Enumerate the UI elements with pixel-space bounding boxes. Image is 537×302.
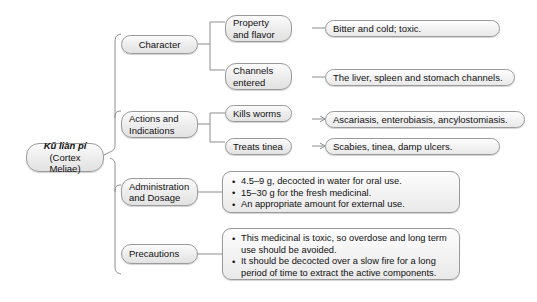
- list-item: 4.5–9 g, decocted in water for oral use.: [232, 176, 451, 188]
- subnode-label: Treats tinea: [233, 141, 283, 153]
- branch-label: Actions and Indications: [129, 113, 190, 136]
- leaf-kills-worms[interactable]: Ascariasis, enterobiasis, ancylostomiasi…: [325, 111, 525, 128]
- branch-node-precautions[interactable]: Precautions: [121, 244, 198, 264]
- branch-label: Precautions: [129, 248, 179, 260]
- leaf-text: The liver, spleen and stomach channels.: [333, 72, 503, 84]
- branch-node-character[interactable]: Character: [121, 35, 198, 54]
- leaf-treats-tinea[interactable]: Scabies, tinea, damp ulcers.: [325, 138, 500, 155]
- branch-node-actions-and-indications[interactable]: Actions and Indications: [121, 111, 198, 138]
- dosage-bullet-list: 4.5–9 g, decocted in water for oral use.…: [232, 176, 451, 211]
- branch-label: Character: [139, 39, 181, 51]
- root-node-latin: (Cortex Meliae): [34, 152, 96, 175]
- list-item: An appropriate amount for external use.: [232, 199, 451, 211]
- precautions-bullet-list: This medicinal is toxic, so overdose and…: [232, 233, 451, 279]
- leaf-text: Bitter and cold; toxic.: [333, 23, 421, 35]
- subnode-treats-tinea[interactable]: Treats tinea: [225, 138, 292, 155]
- subnode-kills-worms[interactable]: Kills worms: [225, 105, 292, 122]
- branch-node-administration-and-dosage[interactable]: Administration and Dosage: [121, 178, 198, 206]
- panel-precautions[interactable]: This medicinal is toxic, so overdose and…: [222, 228, 460, 280]
- list-item: 15–30 g for the fresh medicinal.: [232, 188, 451, 200]
- subnode-label: Kills worms: [233, 108, 281, 120]
- leaf-property-and-flavor[interactable]: Bitter and cold; toxic.: [325, 20, 500, 37]
- branch-label: Administration and Dosage: [129, 181, 190, 204]
- subnode-channels-entered[interactable]: Channels entered: [225, 63, 292, 90]
- root-node-pinyin: Kǔ liàn pí: [44, 140, 87, 152]
- leaf-text: Scabies, tinea, damp ulcers.: [333, 141, 452, 153]
- mindmap-diagram: Kǔ liàn pí (Cortex Meliae) Character Act…: [0, 0, 537, 302]
- subnode-property-and-flavor[interactable]: Property and flavor: [225, 15, 292, 42]
- panel-administration-and-dosage[interactable]: 4.5–9 g, decocted in water for oral use.…: [222, 171, 460, 213]
- list-item: It should be decocted over a slow fire f…: [232, 256, 451, 279]
- subnode-label: Property and flavor: [233, 17, 284, 40]
- list-item: This medicinal is toxic, so overdose and…: [232, 233, 451, 256]
- leaf-channels-entered[interactable]: The liver, spleen and stomach channels.: [325, 69, 515, 86]
- root-node[interactable]: Kǔ liàn pí (Cortex Meliae): [26, 143, 104, 172]
- leaf-text: Ascariasis, enterobiasis, ancylostomiasi…: [333, 114, 508, 126]
- subnode-label: Channels entered: [233, 65, 284, 88]
